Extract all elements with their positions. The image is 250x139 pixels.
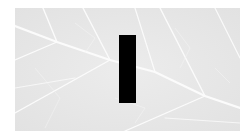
black-bar-overlay <box>119 35 136 103</box>
